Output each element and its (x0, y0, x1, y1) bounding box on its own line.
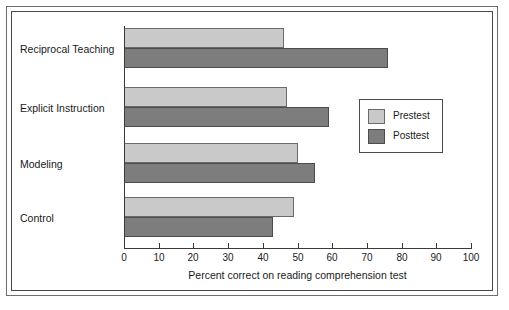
bar-posttest-3 (124, 217, 273, 237)
bar-posttest-2 (124, 163, 315, 183)
legend-item-prestest: Prestest (368, 106, 434, 126)
x-axis-title: Percent correct on reading comprehension… (188, 270, 406, 281)
bar-prestest-0 (124, 28, 284, 48)
tick-label-70: 70 (361, 253, 372, 263)
bar-posttest-1 (124, 107, 329, 127)
bar-prestest-3 (124, 197, 294, 217)
bar-prestest-1 (124, 87, 287, 107)
category-label-0: Reciprocal Teaching (20, 44, 128, 55)
tick-label-80: 80 (396, 253, 407, 263)
bar-posttest-0 (124, 48, 388, 68)
bar-prestest-2 (124, 143, 298, 163)
tick-label-0: 0 (121, 253, 127, 263)
tick-mark-30 (228, 243, 229, 248)
legend-item-posttest: Posttest (368, 126, 434, 146)
chart-legend: PrestestPosttest (359, 99, 443, 153)
figure-outer-frame: Reciprocal TeachingExplicit InstructionM… (6, 6, 498, 296)
legend-swatch-post (368, 129, 385, 144)
tick-mark-100 (471, 243, 472, 248)
tick-mark-0 (124, 243, 125, 248)
tick-mark-10 (159, 243, 160, 248)
tick-label-30: 30 (222, 253, 233, 263)
tick-mark-50 (298, 243, 299, 248)
value-axis-line (124, 248, 472, 249)
value-axis-origin-line (124, 26, 125, 248)
category-label-2: Modeling (20, 159, 128, 170)
legend-label-pre: Prestest (393, 111, 430, 121)
legend-label-post: Posttest (393, 131, 429, 141)
tick-label-50: 50 (292, 253, 303, 263)
category-label-3: Control (20, 213, 128, 224)
tick-mark-20 (193, 243, 194, 248)
legend-swatch-pre (368, 109, 385, 124)
tick-mark-90 (436, 243, 437, 248)
tick-label-10: 10 (153, 253, 164, 263)
tick-mark-40 (263, 243, 264, 248)
tick-label-90: 90 (430, 253, 441, 263)
figure-inner-frame: Reciprocal TeachingExplicit InstructionM… (11, 11, 493, 291)
category-label-1: Explicit Instruction (20, 103, 128, 114)
tick-mark-70 (367, 243, 368, 248)
tick-label-20: 20 (187, 253, 198, 263)
tick-mark-60 (332, 243, 333, 248)
bar-chart-plot-area: Reciprocal TeachingExplicit InstructionM… (12, 12, 492, 290)
tick-label-100: 100 (463, 253, 480, 263)
tick-label-40: 40 (257, 253, 268, 263)
tick-mark-80 (402, 243, 403, 248)
tick-label-60: 60 (326, 253, 337, 263)
